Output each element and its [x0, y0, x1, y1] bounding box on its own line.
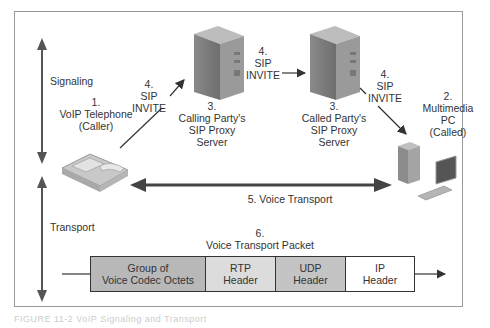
packet-field-ip-header: IPHeader	[346, 257, 414, 291]
packet-field-rtp-header: RTPHeader	[206, 257, 276, 291]
figure-caption: FIGURE 11-2 VoIP Signaling and Transport	[14, 314, 207, 324]
packet-title: 6. Voice Transport Packet	[190, 227, 330, 251]
sip-invite-label-2: 4. SIP INVITE	[244, 45, 282, 81]
voice-transport-arrow	[130, 178, 392, 192]
packet-field-codec-octets: Group ofVoice Codec Octets	[91, 257, 206, 291]
calling-proxy-label: 3. Calling Party's SIP Proxy Server	[172, 100, 252, 148]
packet-field-udp-header: UDPHeader	[276, 257, 346, 291]
signaling-layer-label: Signaling	[50, 75, 93, 87]
multimedia-pc-icon	[398, 142, 456, 200]
called-pc-label: 2. Multimedia PC (Called)	[418, 90, 478, 138]
sip-invite-label-1: 4. SIP INVITE	[132, 78, 166, 114]
voice-transport-packet: Group ofVoice Codec Octets RTPHeader UDP…	[90, 256, 415, 292]
sip-invite-label-3: 4. SIP INVITE	[366, 68, 404, 104]
calling-proxy-server-icon	[194, 26, 244, 100]
voip-telephone-icon	[62, 154, 128, 192]
caller-label: 1. VoIP Telephone (Caller)	[58, 96, 134, 132]
signaling-arrow	[37, 38, 47, 164]
called-proxy-server-icon	[310, 26, 360, 100]
transport-arrow	[37, 176, 47, 302]
transport-layer-label: Transport	[50, 221, 95, 233]
invite-arrow-3	[378, 106, 406, 134]
invite-arrow-1	[170, 80, 184, 96]
called-proxy-label: 3. Called Party's SIP Proxy Server	[294, 100, 374, 148]
voice-transport-label: 5. Voice Transport	[230, 193, 350, 205]
